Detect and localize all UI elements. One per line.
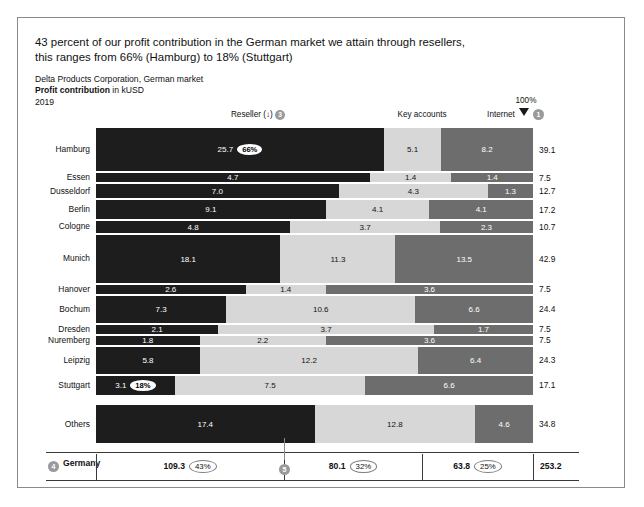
- bar-value-reseller: 17.4: [197, 420, 213, 429]
- bar-value-reseller: 3.1: [115, 381, 126, 390]
- stacked-bar: 17.412.84.6: [96, 405, 533, 444]
- summary-total: 253.2: [536, 458, 584, 474]
- bar-value-reseller: 18.1: [180, 255, 196, 264]
- bar-segment-internet: 6.6: [365, 376, 533, 395]
- bar-value-key-accounts: 12.8: [387, 420, 403, 429]
- table-row: Hanover2.61.43.67.5: [18, 285, 626, 294]
- bar-segment-internet: 4.1: [429, 200, 533, 219]
- row-label-nuremberg: Nuremberg: [18, 336, 90, 345]
- bar-segment-key-accounts: 4.3: [339, 184, 488, 198]
- row-label-stuttgart: Stuttgart: [18, 376, 90, 395]
- row-total: 17.2: [539, 200, 579, 219]
- bar-value-reseller: 2.1: [152, 325, 163, 334]
- bar-segment-key-accounts: 4.1: [326, 200, 430, 219]
- bar-value-internet: 6.4: [470, 356, 481, 365]
- table-row: Hamburg225.766%5.18.239.1: [18, 128, 626, 171]
- bar-segment-internet: 8.2: [441, 128, 533, 171]
- bar-value-internet: 4.1: [476, 205, 487, 214]
- bar-value-internet: 1.3: [505, 187, 516, 196]
- row-label-others: Others: [18, 405, 90, 444]
- bar-value-key-accounts: 12.2: [301, 356, 317, 365]
- bar-segment-internet: 1.7: [434, 325, 533, 334]
- row-label-hamburg: Hamburg: [18, 128, 90, 171]
- summary-internet-pct: 25%: [474, 460, 502, 473]
- bar-segment-internet: 3.6: [326, 285, 533, 294]
- row-total: 42.9: [539, 235, 579, 283]
- stacked-bar: 7.310.66.6: [96, 296, 533, 323]
- table-row: Essen4.71.41.47.5: [18, 173, 626, 182]
- stacked-bar: 1.82.23.6: [96, 336, 533, 345]
- table-row: Berlin9.14.14.117.2: [18, 200, 626, 219]
- bar-segment-reseller: 4.8: [96, 221, 290, 233]
- bar-value-key-accounts: 3.7: [360, 223, 371, 232]
- table-row: Cologne4.83.72.310.7: [18, 221, 626, 233]
- bar-value-reseller: 5.8: [142, 356, 153, 365]
- bar-segment-internet: 6.4: [418, 347, 533, 374]
- bar-segment-internet: 6.6: [415, 296, 533, 323]
- summary-divider-right: [533, 454, 534, 480]
- highlight-badge: 18%: [130, 380, 155, 391]
- stacked-bar: 7.04.31.3: [96, 184, 533, 198]
- summary-key-accounts: 80.1 32%: [284, 458, 422, 474]
- bar-value-key-accounts: 7.5: [264, 381, 275, 390]
- bar-segment-key-accounts: 12.2: [200, 347, 419, 374]
- bar-segment-reseller: 5.8: [96, 347, 200, 374]
- table-row: Dusseldorf7.04.31.312.7: [18, 184, 626, 198]
- bar-value-reseller: 4.7: [227, 173, 238, 182]
- stacked-bar: 18.111.313.5: [96, 235, 533, 283]
- bar-segment-key-accounts: 3.7: [218, 325, 434, 334]
- bar-value-internet: 6.6: [469, 305, 480, 314]
- bar-value-key-accounts: 11.3: [330, 255, 345, 264]
- bar-segment-key-accounts: 1.4: [370, 173, 452, 182]
- bar-rows-container: Hamburg225.766%5.18.239.1Essen4.71.41.47…: [18, 18, 626, 489]
- bar-value-internet: 3.6: [424, 285, 435, 294]
- bar-segment-reseller: 7.0: [96, 184, 339, 198]
- bar-segment-internet: 13.5: [395, 235, 533, 283]
- row-total: 7.5: [539, 285, 579, 294]
- bar-segment-internet: 4.6: [475, 405, 533, 444]
- row-label-munich: Munich: [18, 235, 90, 283]
- bar-segment-reseller: 25.766%: [96, 128, 384, 171]
- bar-segment-key-accounts: 1.4: [246, 285, 327, 294]
- row-total: 39.1: [539, 128, 579, 171]
- bar-value-reseller: 7.0: [212, 187, 223, 196]
- row-label-bochum: Bochum: [18, 296, 90, 323]
- axis-stub-line: [284, 438, 285, 460]
- bar-segment-reseller: 2.1: [96, 325, 218, 334]
- bar-segment-key-accounts: 7.5: [175, 376, 366, 395]
- stacked-bar: 4.71.41.4: [96, 173, 533, 182]
- row-total: 12.7: [539, 184, 579, 198]
- table-row: Bochum7.310.66.624.4: [18, 296, 626, 323]
- row-total: 7.5: [539, 325, 579, 334]
- bar-segment-internet: 2.3: [440, 221, 533, 233]
- bar-value-reseller: 1.8: [142, 336, 153, 345]
- stacked-bar: 4.83.72.3: [96, 221, 533, 233]
- bar-value-key-accounts: 10.6: [313, 305, 329, 314]
- bar-value-key-accounts: 4.3: [408, 187, 419, 196]
- bar-segment-reseller: 17.4: [96, 405, 315, 444]
- bar-segment-reseller: 1.8: [96, 336, 200, 345]
- row-label-hanover: Hanover: [18, 285, 90, 294]
- bar-value-reseller: 2.6: [165, 285, 176, 294]
- table-row: Dresden2.13.71.77.5: [18, 325, 626, 334]
- bar-value-internet: 1.7: [478, 325, 489, 334]
- bar-segment-reseller: 4.7: [96, 173, 370, 182]
- table-row: Stuttgart3.118%7.56.617.1: [18, 376, 626, 395]
- bar-value-internet: 6.6: [444, 381, 455, 390]
- bar-segment-key-accounts: 3.7: [290, 221, 440, 233]
- bar-value-internet: 3.6: [424, 336, 435, 345]
- row-total: 7.5: [539, 173, 579, 182]
- summary-reseller-pct: 43%: [189, 460, 217, 473]
- stacked-bar: 2.61.43.6: [96, 285, 533, 294]
- bar-value-internet: 13.5: [456, 255, 472, 264]
- stacked-bar: 2.13.71.7: [96, 325, 533, 334]
- bar-value-reseller: 7.3: [156, 305, 167, 314]
- table-row: Leipzig5.812.26.424.3: [18, 347, 626, 374]
- bar-segment-key-accounts: 11.3: [280, 235, 395, 283]
- row-label-essen: Essen: [18, 173, 90, 182]
- bar-value-internet: 4.6: [499, 420, 510, 429]
- summary-reseller: 109.3 43%: [96, 458, 284, 474]
- bar-value-key-accounts: 1.4: [280, 285, 291, 294]
- table-row: Munich18.111.313.542.9: [18, 235, 626, 283]
- bar-segment-key-accounts: 10.6: [226, 296, 415, 323]
